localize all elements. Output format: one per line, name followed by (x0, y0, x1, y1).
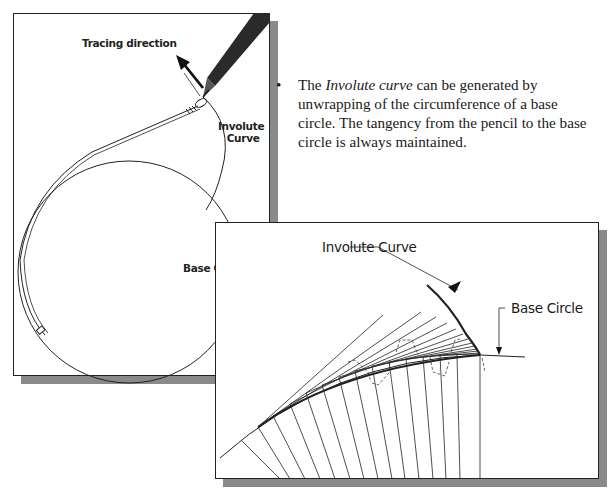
base-circle-leader (499, 308, 505, 348)
involute-leader-arrowhead (448, 281, 461, 293)
base-circle-leader-arrowhead (496, 347, 502, 355)
radial-lines (241, 355, 480, 479)
involute-curve-title: Involute Curve (322, 239, 417, 255)
tangent-lines (258, 312, 480, 427)
base-circle-title: Base Circle (511, 300, 583, 316)
right-figure-drawing (0, 0, 615, 491)
